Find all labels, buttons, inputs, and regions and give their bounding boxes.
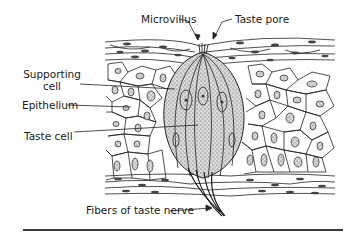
bottom-rule	[23, 229, 343, 231]
epithelium-nuclei-right	[247, 71, 324, 167]
label-supporting-cell-line1: Supporting	[22, 68, 82, 80]
label-microvillus: Microvillus	[141, 13, 196, 25]
label-taste-pore: Taste pore	[235, 13, 289, 25]
taste-bud	[164, 52, 244, 178]
taste-bud-diagram	[0, 0, 356, 238]
label-supporting-cell: Supporting cell	[22, 68, 82, 92]
label-taste-cell: Taste cell	[24, 130, 73, 142]
label-epithelium: Epithelium	[22, 99, 78, 111]
epithelium-nuclei-left	[112, 69, 166, 173]
label-fibers-of-taste-nerve: Fibers of taste nerve	[86, 204, 194, 216]
surface-nuclei	[117, 41, 329, 62]
label-supporting-cell-line2: cell	[22, 80, 82, 92]
surface-squamous-layer	[105, 38, 335, 64]
